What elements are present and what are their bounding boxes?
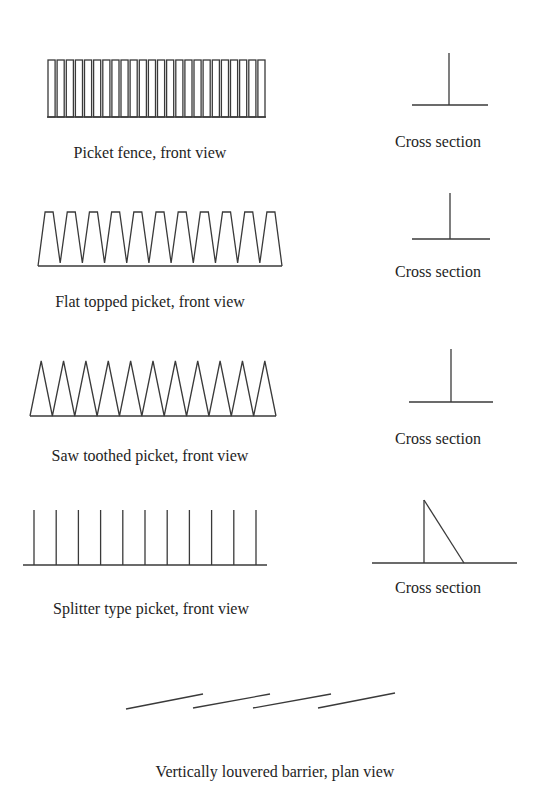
picket xyxy=(85,60,92,117)
splitter-type-picket-caption: Splitter type picket, front view xyxy=(53,601,249,617)
splitter-type-picket-cross-section-caption: Cross section xyxy=(395,580,481,596)
cross-section-diagonal xyxy=(424,500,464,563)
louver-slat xyxy=(318,693,395,708)
fence-diagram-canvas xyxy=(0,0,549,800)
saw-toothed-picket-cross-section-caption: Cross section xyxy=(395,431,481,447)
saw-tooth-profile xyxy=(30,361,276,416)
picket xyxy=(66,60,73,117)
splitter-type-picket-front-view xyxy=(23,510,267,565)
louver-slat xyxy=(253,694,331,708)
picket xyxy=(75,60,82,117)
picket-fence-cross-section xyxy=(412,53,488,105)
picket xyxy=(240,60,247,117)
picket xyxy=(231,60,238,117)
picket xyxy=(130,60,137,117)
louvered-barrier-plan-view xyxy=(126,693,395,709)
saw-toothed-picket-front-view xyxy=(30,361,276,416)
saw-toothed-picket-cross-section xyxy=(409,349,493,402)
picket xyxy=(167,60,174,117)
picket xyxy=(48,60,55,117)
picket-fence-caption: Picket fence, front view xyxy=(74,145,227,161)
picket xyxy=(158,60,165,117)
flat-topped-picket-caption: Flat topped picket, front view xyxy=(55,294,245,310)
louvered-barrier-caption: Vertically louvered barrier, plan view xyxy=(156,764,395,780)
picket xyxy=(103,60,110,117)
picket xyxy=(112,60,119,117)
saw-toothed-picket-caption: Saw toothed picket, front view xyxy=(52,448,249,464)
louver-slat xyxy=(193,694,270,708)
flat-topped-profile xyxy=(38,212,282,266)
picket xyxy=(258,60,265,117)
picket-fence-cross-section-caption: Cross section xyxy=(395,134,481,150)
splitter-type-picket-cross-section xyxy=(372,500,517,563)
picket xyxy=(57,60,64,117)
picket xyxy=(94,60,101,117)
picket xyxy=(203,60,210,117)
flat-topped-picket-cross-section-caption: Cross section xyxy=(395,264,481,280)
picket xyxy=(176,60,183,117)
picket xyxy=(194,60,201,117)
picket xyxy=(249,60,256,117)
picket xyxy=(148,60,155,117)
picket xyxy=(212,60,219,117)
picket-fence-front-view xyxy=(47,60,266,117)
flat-topped-picket-cross-section xyxy=(412,193,490,239)
picket xyxy=(221,60,228,117)
picket xyxy=(139,60,146,117)
picket xyxy=(185,60,192,117)
louver-slat xyxy=(126,694,203,709)
picket xyxy=(121,60,128,117)
flat-topped-picket-front-view xyxy=(38,212,282,266)
